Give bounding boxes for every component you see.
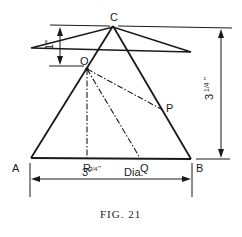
svg-text:1/4: 1/4: [203, 82, 210, 92]
side-cb: [113, 26, 191, 159]
label-c: C: [110, 11, 118, 23]
svg-text:3: 3: [203, 94, 215, 100]
dim-base: 3 3/4 " Dia.: [82, 164, 144, 178]
label-a: A: [12, 162, 20, 174]
label-o: O: [80, 55, 89, 67]
diagram: C O P A R Q B 1" 3 1/4 " 3 3/4 " Dia. FI…: [0, 0, 242, 237]
dim-top-offset: 1": [43, 40, 55, 50]
svg-text:3/4: 3/4: [89, 166, 98, 172]
dim-height: 3 1/4 ": [202, 77, 215, 100]
svg-text:Dia.: Dia.: [124, 166, 144, 178]
label-p: P: [166, 102, 173, 114]
base-ab: [31, 158, 191, 159]
svg-text:": ": [98, 164, 101, 173]
figure-caption: FIG. 21: [100, 208, 141, 220]
line-oq: [87, 69, 140, 158]
label-b: B: [196, 162, 203, 174]
svg-text:": ": [202, 77, 211, 80]
svg-text:3: 3: [82, 166, 88, 178]
point-o: [85, 67, 89, 71]
